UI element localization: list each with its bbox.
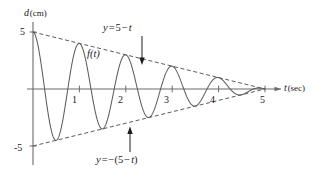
- lower-eq-close: ): [134, 154, 138, 165]
- y-tick-label-5: 5: [20, 26, 25, 37]
- x-tick-label-4: 4: [210, 94, 215, 105]
- x-tick-label-3: 3: [164, 94, 169, 105]
- curve-function-arg: (t): [90, 48, 100, 59]
- upper-eq-equals: =: [108, 22, 116, 33]
- lower-annotation-arrow: [127, 127, 132, 153]
- upper-envelope-line: [33, 32, 265, 89]
- x-axis-unit: (sec): [288, 83, 306, 93]
- upper-envelope-equation: y=5−t: [103, 23, 132, 34]
- x-tick-label-1: 1: [72, 94, 77, 105]
- damped-cosine-curve: [33, 32, 265, 140]
- curve-function-label: f(t): [87, 49, 100, 60]
- y-axis-unit: (cm): [30, 8, 47, 18]
- upper-annotation-arrow: [139, 36, 144, 65]
- x-tick-label-2: 2: [118, 94, 123, 105]
- lower-eq-minus: −: [123, 154, 131, 165]
- upper-eq-minus: −: [121, 22, 129, 33]
- upper-eq-rhs-b: t: [129, 22, 132, 33]
- lower-envelope-equation: y=−(5−t): [96, 155, 138, 166]
- lower-eq-lhs: y: [96, 154, 101, 165]
- plot-canvas: [0, 0, 322, 178]
- upper-eq-lhs: y: [103, 22, 108, 33]
- damped-oscillation-figure: d (cm) t (sec) 5 -5 1 2 3 4 5 f(t) y=5−t…: [0, 0, 322, 178]
- lower-eq-neg: −(: [109, 154, 118, 165]
- y-axis-label: d (cm): [24, 8, 47, 18]
- lower-eq-equals: =: [101, 154, 109, 165]
- x-axis-label: t (sec): [284, 83, 305, 93]
- x-axis-arrowhead: [275, 87, 282, 91]
- x-tick-label-5: 5: [260, 94, 265, 105]
- y-tick-label-minus5: -5: [14, 142, 22, 153]
